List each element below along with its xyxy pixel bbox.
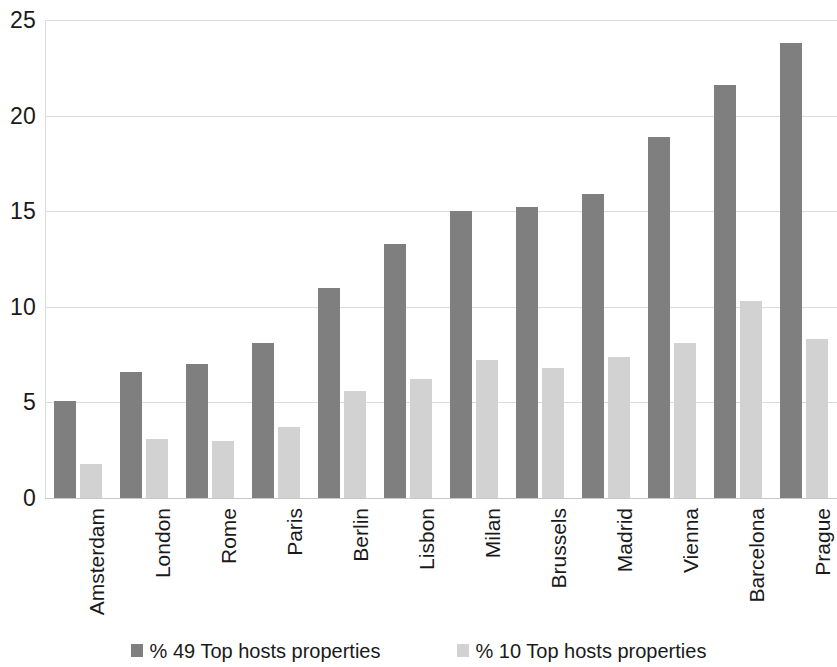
bar: [674, 343, 696, 498]
bars-layer: [45, 20, 837, 498]
bar: [344, 391, 366, 498]
bar-group: [120, 20, 168, 498]
legend-label: % 49 Top hosts properties: [150, 641, 381, 661]
y-axis-tick-label: 10: [10, 295, 36, 318]
legend-item[interactable]: % 49 Top hosts properties: [131, 641, 381, 661]
bar-group: [516, 20, 564, 498]
x-axis-tick-label: Paris: [284, 508, 305, 556]
y-axis-tick-label: 15: [10, 200, 36, 223]
bar: [318, 288, 340, 498]
bar: [146, 439, 168, 498]
x-axis-tick-label: Milan: [482, 508, 503, 558]
x-axis-tick-label: Prague: [812, 508, 833, 576]
bar-group: [252, 20, 300, 498]
bar-group: [714, 20, 762, 498]
y-axis-tick-label: 25: [10, 9, 36, 32]
x-axis-tick-label: Barcelona: [746, 508, 767, 603]
y-axis: 0510152025: [0, 0, 44, 520]
x-axis-tick-label: Brussels: [548, 508, 569, 589]
bar-group: [648, 20, 696, 498]
bar-group: [186, 20, 234, 498]
bar: [740, 301, 762, 498]
legend-swatch-icon: [131, 644, 143, 657]
bar: [384, 244, 406, 498]
x-axis-tick-label: Amsterdam: [86, 508, 107, 615]
x-axis-tick-label: Rome: [218, 508, 239, 564]
x-axis-tick-label: Vienna: [680, 508, 701, 573]
legend-item[interactable]: % 10 Top hosts properties: [457, 641, 707, 661]
bar: [186, 364, 208, 498]
bar-group: [54, 20, 102, 498]
bar-group: [318, 20, 366, 498]
bar: [120, 372, 142, 498]
bar-group: [450, 20, 498, 498]
x-axis-tick-label: Berlin: [350, 508, 371, 562]
bar: [780, 43, 802, 498]
x-axis-tick-label: Lisbon: [416, 508, 437, 570]
x-axis-tick-label: Madrid: [614, 508, 635, 572]
bar: [476, 360, 498, 498]
bar: [252, 343, 274, 498]
y-axis-tick-label: 0: [23, 487, 36, 510]
bar: [516, 207, 538, 498]
bar: [450, 211, 472, 498]
y-axis-tick-label: 5: [23, 391, 36, 414]
bar: [608, 357, 630, 498]
bar: [806, 339, 828, 498]
bar: [648, 137, 670, 498]
bar: [410, 379, 432, 498]
x-axis-tick-label: London: [152, 508, 173, 578]
y-axis-tick-label: 20: [10, 104, 36, 127]
bar: [278, 427, 300, 498]
bar: [542, 368, 564, 498]
legend-swatch-icon: [457, 644, 469, 657]
bar: [54, 401, 76, 499]
bar-chart: 0510152025 AmsterdamLondonRomeParisBerli…: [0, 0, 837, 667]
chart-legend: % 49 Top hosts properties% 10 Top hosts …: [0, 634, 837, 667]
bar-group: [582, 20, 630, 498]
bar: [714, 85, 736, 498]
bar-group: [384, 20, 432, 498]
bar: [212, 441, 234, 498]
x-axis-line: [45, 498, 837, 499]
bar: [582, 194, 604, 498]
legend-label: % 10 Top hosts properties: [476, 641, 707, 661]
bar-group: [780, 20, 828, 498]
x-axis-labels: AmsterdamLondonRomeParisBerlinLisbonMila…: [45, 504, 837, 626]
bar: [80, 464, 102, 498]
